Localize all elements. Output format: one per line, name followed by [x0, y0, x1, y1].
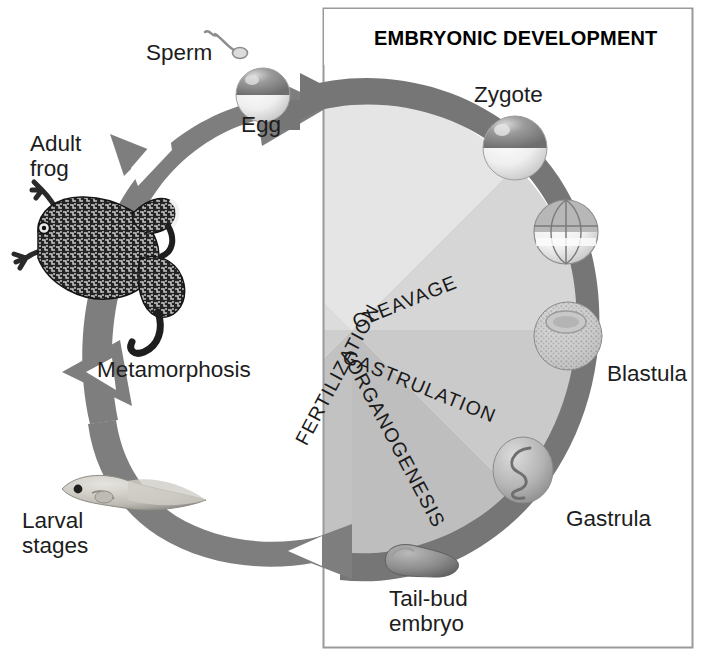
zygote-illustration	[483, 116, 547, 180]
cleavage-embryo-illustration	[534, 200, 598, 264]
label-sperm: Sperm	[146, 40, 212, 65]
label-adult-frog: Adult frog	[30, 131, 81, 182]
label-zygote: Zygote	[474, 82, 543, 107]
blastula-illustration	[534, 302, 602, 370]
tadpole-illustration	[62, 475, 206, 510]
label-blastula: Blastula	[607, 361, 687, 386]
label-tail-bud-embryo: Tail-bud embryo	[389, 586, 468, 637]
gastrula-illustration	[493, 437, 553, 503]
diagram-canvas: EMBRYONIC DEVELOPMENT Adult frog Sperm E…	[0, 0, 701, 670]
label-egg: Egg	[241, 112, 281, 137]
label-gastrula: Gastrula	[566, 506, 651, 531]
label-larval-stages: Larval stages	[22, 508, 88, 559]
panel-title: EMBRYONIC DEVELOPMENT	[374, 27, 657, 50]
label-metamorphosis: Metamorphosis	[97, 357, 251, 382]
